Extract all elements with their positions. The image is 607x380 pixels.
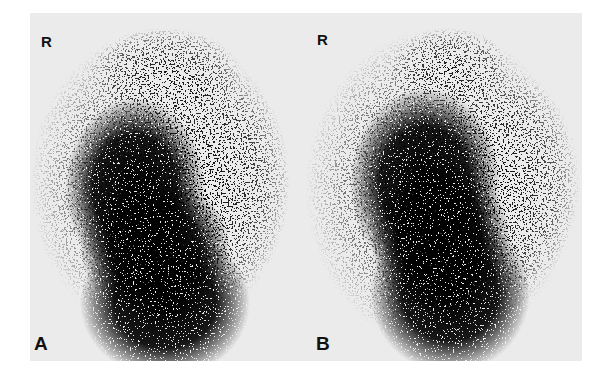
panel-b-orientation-label: R (317, 31, 328, 48)
speckled-activity-image (30, 13, 582, 361)
panel-b-label: B (316, 333, 330, 355)
panel-a-label: A (34, 333, 48, 355)
scintigraphy-figure: R R A B (30, 13, 582, 361)
panel-a-orientation-label: R (41, 33, 52, 50)
